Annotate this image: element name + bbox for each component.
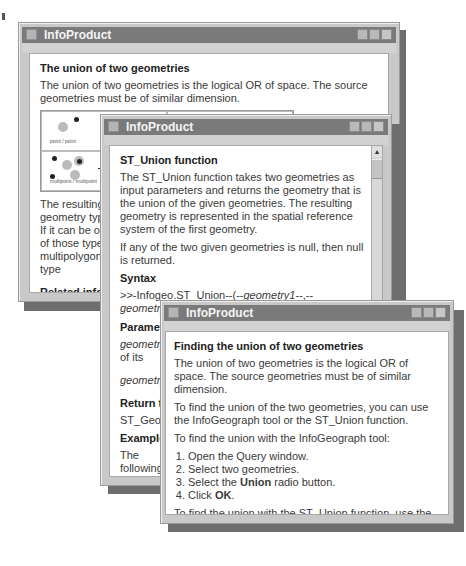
step-item: Open the Query window. bbox=[188, 450, 438, 463]
window3-p3: To find the union with the InfoGeograph … bbox=[174, 432, 438, 445]
maximize-button[interactable] bbox=[423, 307, 434, 318]
diagram-caption: point / point bbox=[50, 135, 76, 148]
page-marker bbox=[2, 13, 5, 20]
minimize-button[interactable] bbox=[349, 121, 360, 132]
scroll-thumb[interactable] bbox=[372, 159, 382, 179]
window-menu-icon[interactable] bbox=[108, 121, 119, 132]
step-item: Select the Union radio button. bbox=[188, 476, 438, 489]
window2-p1: The ST_Union function takes two geometri… bbox=[120, 171, 364, 236]
window1-intro: The union of two geometries is the logic… bbox=[40, 79, 378, 105]
window3-p1: The union of two geometries is the logic… bbox=[174, 357, 438, 396]
minimize-button[interactable] bbox=[357, 29, 368, 40]
diagram-caption: multipoint / multipoint bbox=[50, 175, 97, 188]
window2-p2: If any of the two given geometries is nu… bbox=[120, 241, 364, 267]
window3-toolbar-band bbox=[164, 321, 450, 331]
window-menu-icon[interactable] bbox=[26, 29, 37, 40]
window3-content: Finding the union of two geometries The … bbox=[165, 331, 449, 515]
window-finding-the-union[interactable]: InfoProduct Finding the union of two geo… bbox=[160, 300, 454, 524]
minimize-button[interactable] bbox=[411, 307, 422, 318]
window3-heading: Finding the union of two geometries bbox=[174, 340, 438, 353]
maximize-button[interactable] bbox=[369, 29, 380, 40]
window3-title: InfoProduct bbox=[186, 306, 253, 320]
window1-heading: The union of two geometries bbox=[40, 62, 378, 75]
window3-titlebar[interactable]: InfoProduct bbox=[164, 305, 450, 321]
window2-toolbar-band bbox=[104, 135, 388, 145]
close-button[interactable] bbox=[373, 121, 384, 132]
window2-titlebar[interactable]: InfoProduct bbox=[104, 119, 388, 135]
window1-titlebar[interactable]: InfoProduct bbox=[22, 27, 396, 43]
step-item: Click OK. bbox=[188, 489, 438, 502]
window2-heading: ST_Union function bbox=[120, 154, 364, 167]
window1-toolbar-band bbox=[22, 43, 396, 53]
step-item: Select two geometries. bbox=[188, 463, 438, 476]
close-button[interactable] bbox=[435, 307, 446, 318]
window3-p4: To find the union with the ST_Union func… bbox=[174, 507, 438, 515]
window-menu-icon[interactable] bbox=[168, 307, 179, 318]
window3-p2: To find the union of the two geometries,… bbox=[174, 401, 438, 427]
window1-title: InfoProduct bbox=[44, 28, 111, 42]
window2-title: InfoProduct bbox=[126, 120, 193, 134]
scroll-up-arrow-icon[interactable]: ▲ bbox=[372, 147, 382, 157]
close-button[interactable] bbox=[381, 29, 392, 40]
steps-list: Open the Query window. Select two geomet… bbox=[174, 450, 438, 502]
maximize-button[interactable] bbox=[361, 121, 372, 132]
syntax-heading: Syntax bbox=[120, 272, 364, 285]
